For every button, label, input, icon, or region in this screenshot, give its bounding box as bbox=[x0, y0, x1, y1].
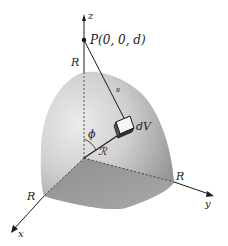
volume-element-label: dV bbox=[136, 121, 151, 132]
radius-x-label: R bbox=[27, 191, 35, 202]
z-axis-label: z bbox=[88, 11, 93, 21]
radius-top-label: R bbox=[71, 57, 79, 68]
y-axis bbox=[174, 182, 209, 194]
y-axis-label: y bbox=[205, 199, 211, 209]
position-vector-label: ℛ bbox=[98, 146, 107, 157]
point-p-label: P(0, 0, d) bbox=[90, 34, 146, 46]
angle-phi-label: ϕ bbox=[88, 129, 96, 140]
z-axis-arrow-icon bbox=[82, 14, 86, 21]
x-axis-label: x bbox=[18, 229, 24, 239]
y-axis-arrow-icon bbox=[206, 191, 214, 197]
distance-s-label: s bbox=[116, 86, 120, 94]
radius-y-label: R bbox=[176, 171, 184, 182]
sphere-octant-diagram: z P(0, 0, d) R s dV ϕ ℛ R R x y bbox=[0, 0, 228, 246]
